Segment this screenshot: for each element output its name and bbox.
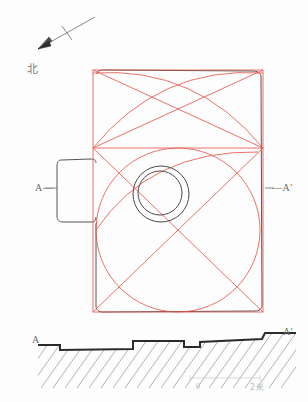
scale-bar-zero-label: 0 bbox=[196, 382, 201, 391]
plan-section-marker-a: A— bbox=[35, 182, 53, 193]
section-label-a-prime: A' bbox=[283, 326, 293, 337]
scale-bar-max-label: 2米 bbox=[250, 381, 264, 392]
section-label-a: A bbox=[32, 334, 40, 345]
plan-section-marker-a-prime: —A' bbox=[272, 182, 293, 193]
site-plan-figure bbox=[0, 0, 308, 402]
north-label: 北 bbox=[27, 60, 39, 76]
